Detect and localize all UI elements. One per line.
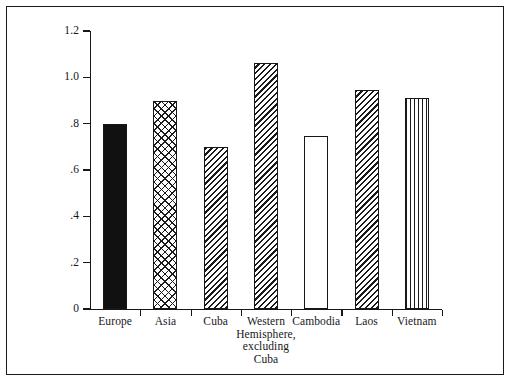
x-axis-category-label-line: Vietnam [386, 315, 448, 328]
x-axis-category-label: Vietnam [386, 315, 448, 328]
bar-cambodia [304, 136, 328, 309]
x-axis-line [90, 309, 442, 310]
bars-layer [7, 7, 505, 309]
x-axis-category-label-line: Cuba [235, 353, 297, 366]
bar-cuba [204, 147, 228, 309]
x-axis-category-label-line: excluding [235, 340, 297, 353]
bar-chart: 1.21.0.8.6.4.20 EuropeAsiaCubaWesternHem… [7, 7, 505, 376]
x-axis-category-labels: EuropeAsiaCubaWesternHemisphere,excludin… [7, 315, 505, 376]
x-axis-category-label-line: Hemisphere, [235, 328, 297, 341]
bar-europe [103, 124, 127, 309]
bar-asia [153, 101, 177, 310]
bar-laos [355, 90, 379, 309]
bar-western-hemisphere [254, 63, 278, 309]
figure-frame: 1.21.0.8.6.4.20 EuropeAsiaCubaWesternHem… [6, 6, 504, 375]
bar-vietnam [405, 98, 429, 309]
